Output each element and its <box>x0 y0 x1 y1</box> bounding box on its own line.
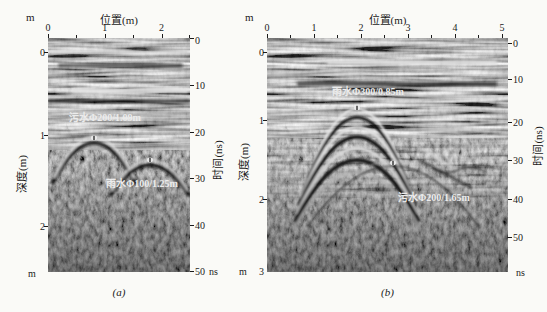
panel-b-time-tick-40: 40 <box>513 194 523 205</box>
panel-a-annotation-sewage-pipe: 污水Φ200/1.09m <box>69 111 142 123</box>
panel-b-depth-tick-2: 2 <box>250 194 264 205</box>
figure-gpr-radargrams: 位置(m) m 0 1 2 0 1 2 m 深度(m) 0 10 20 30 4… <box>0 0 547 312</box>
tick-mark <box>508 79 512 80</box>
radargram-a-depth-shading <box>48 150 190 272</box>
panel-a-time-unit: ns <box>209 265 218 276</box>
radargram-a-layer-banding <box>48 38 190 150</box>
tick-mark <box>190 178 194 179</box>
panel-b-time-tick-30: 30 <box>513 154 523 165</box>
panel-b-depth-tick-3: 3 <box>250 265 264 276</box>
panel-a-time-tick-0: 0 <box>195 35 200 46</box>
tick-mark <box>508 237 512 238</box>
panel-b-time-axis-label: 时间(ns) <box>529 126 545 165</box>
panel-a-caption: (a) <box>48 286 190 298</box>
pipe-apex-marker-icon <box>147 158 153 163</box>
panel-b-position-tick-5: 5 <box>499 22 504 34</box>
panel-b-depth-tick-1: 1 <box>250 114 264 125</box>
panel-b-position-tick-2: 2 <box>358 22 363 34</box>
panel-a-time-tick-30: 30 <box>195 173 205 184</box>
panel-b-time-tick-50: 50 <box>513 231 523 242</box>
panel-b-position-tick-4: 4 <box>452 22 457 34</box>
panel-a-depth-unit-bottom: m <box>28 268 36 279</box>
tick-mark <box>508 122 512 123</box>
panel-b-depth-unit-bottom: m <box>239 265 247 276</box>
panel-b-position-axis-title: 位置(m) <box>267 11 508 27</box>
panel-a-depth-tick-0: 0 <box>31 47 45 58</box>
radargram-panel-a: 位置(m) m 0 1 2 0 1 2 m 深度(m) 0 10 20 30 4… <box>48 38 190 272</box>
panel-b-depth-axis-label: 深度(m) <box>235 143 251 181</box>
panel-b-depth-tick-0: 0 <box>250 47 264 58</box>
panel-b-position-tick-3: 3 <box>405 22 410 34</box>
panel-a-position-tick-1: 1 <box>102 22 107 34</box>
panel-b-time-tick-0: 0 <box>513 37 518 48</box>
pipe-apex-marker-icon <box>390 161 396 166</box>
panel-a-time-axis-label: 时间(ns) <box>209 140 225 179</box>
panel-a-depth-tick-1: 1 <box>31 130 45 141</box>
panel-b-position-tick-1: 1 <box>311 22 316 34</box>
panel-b-time-tick-20: 20 <box>513 117 523 128</box>
panel-b-time-unit: ns <box>516 267 525 278</box>
tick-mark <box>508 43 512 44</box>
panel-a-annotation-rainwater-pipe: 雨水Φ100/1.25m <box>106 177 179 189</box>
panel-a-depth-axis-label: 深度(m) <box>13 155 29 193</box>
panel-b-position-tick-0: 0 <box>265 22 270 34</box>
radargram-image-a: 污水Φ200/1.09m 雨水Φ100/1.25m <box>48 38 190 272</box>
panel-b-depth-unit-top: m <box>245 11 254 23</box>
panel-a-time-tick-50: 50 <box>195 265 205 276</box>
radargram-panel-b: 位置(m) m 0 1 2 3 4 5 0 1 2 3 m 深度(m) 0 10… <box>267 38 508 272</box>
tick-mark <box>190 225 194 226</box>
panel-a-time-tick-20: 20 <box>195 126 205 137</box>
panel-a-time-tick-10: 10 <box>195 79 205 90</box>
panel-a-position-tick-0: 0 <box>46 22 51 34</box>
pipe-apex-marker-icon <box>91 136 97 141</box>
tick-mark <box>508 199 512 200</box>
pipe-apex-marker-icon <box>354 106 360 111</box>
panel-a-time-tick-40: 40 <box>195 220 205 231</box>
panel-a-position-axis-title: 位置(m) <box>48 11 190 27</box>
tick-mark <box>190 132 194 133</box>
panel-a-depth-tick-2: 2 <box>31 221 45 232</box>
tick-mark <box>190 85 194 86</box>
radargram-b-depth-shading <box>267 158 508 272</box>
tick-mark <box>190 271 194 272</box>
tick-mark <box>190 38 194 39</box>
panel-b-annotation-rainwater-pipe: 雨水Φ300/0.85m <box>332 85 405 97</box>
radargram-image-b: 雨水Φ300/0.85m 污水Φ200/1.65m <box>267 38 508 272</box>
tick-mark <box>508 160 512 161</box>
panel-b-time-tick-10: 10 <box>513 73 523 84</box>
panel-b-caption: (b) <box>267 286 508 298</box>
panel-a-depth-unit-top: m <box>26 11 35 23</box>
panel-b-annotation-sewage-pipe: 污水Φ200/1.65m <box>398 191 471 203</box>
panel-a-position-tick-2: 2 <box>159 22 164 34</box>
